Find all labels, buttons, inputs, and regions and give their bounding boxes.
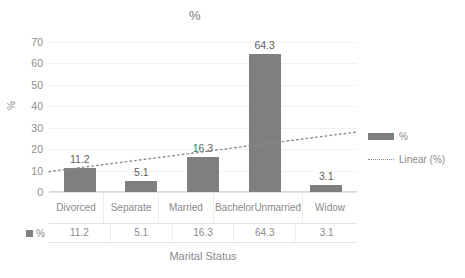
data-table-value-cell: 16.3 <box>172 224 234 242</box>
data-table-category-cell: Divorced <box>49 193 103 223</box>
bar-slot: 3.1 <box>295 42 357 192</box>
y-axis-tick-label: 40 <box>31 101 43 112</box>
bar-slot: 64.3 <box>234 42 296 192</box>
plot-area: 010203040506070 11.25.116.364.33.1 <box>49 42 357 192</box>
series-color-swatch-icon <box>26 230 33 237</box>
y-axis-tick-label: 70 <box>31 37 43 48</box>
data-table-value-cell: 5.1 <box>110 224 172 242</box>
data-table-category-text: Bachelor <box>215 202 254 214</box>
data-table-category-text: Separate <box>111 202 152 214</box>
data-table-category-cell: BachelorUnmarried <box>213 193 302 223</box>
bar[interactable] <box>187 157 219 192</box>
bar-value-label: 3.1 <box>319 170 334 182</box>
bar-value-label: 11.2 <box>70 153 90 165</box>
legend-dotted-line-swatch-icon <box>368 156 394 163</box>
bar[interactable] <box>125 181 157 192</box>
bar-slot: 11.2 <box>49 42 111 192</box>
data-table-value-cell: 11.2 <box>49 224 110 242</box>
data-table-row-header: % <box>26 224 49 242</box>
data-table-category-text: Unmarried <box>254 202 301 214</box>
bar[interactable] <box>249 54 281 192</box>
data-table-category-text: Married <box>169 202 203 214</box>
data-table-category-text: Widow <box>315 202 345 214</box>
data-table-category-row: DivorcedSeparateMarriedBachelorUnmarried… <box>49 193 357 224</box>
x-axis-title: Marital Status <box>49 250 357 262</box>
bar-slot: 16.3 <box>172 42 234 192</box>
y-axis-tick-label: 0 <box>37 187 43 198</box>
bar-slot: 5.1 <box>111 42 173 192</box>
data-table-value-cell: 3.1 <box>295 224 357 242</box>
data-table: % DivorcedSeparateMarriedBachelorUnmarri… <box>49 192 357 243</box>
y-axis-tick-label: 60 <box>31 58 43 69</box>
legend-item-trendline[interactable]: Linear (%) <box>368 154 463 165</box>
y-axis-tick-label: 50 <box>31 80 43 91</box>
chart-legend: % Linear (%) <box>368 131 463 177</box>
data-table-value-row: 11.25.116.364.33.1 <box>49 224 357 242</box>
bar-value-label: 16.3 <box>193 142 213 154</box>
data-table-row-label: % <box>36 228 45 239</box>
y-axis-title: % <box>6 101 17 110</box>
data-table-category-cell: Widow <box>302 193 357 223</box>
bar-value-label: 5.1 <box>134 166 149 178</box>
chart-container: % % 010203040506070 11.25.116.364.33.1 %… <box>0 0 465 278</box>
y-axis-tick-label: 20 <box>31 144 43 155</box>
bar-value-label: 64.3 <box>254 39 274 51</box>
chart-title: % <box>0 8 390 23</box>
y-axis-tick-label: 10 <box>31 165 43 176</box>
data-table-category-text: Divorced <box>56 202 95 214</box>
data-table-category-cell: Married <box>158 193 213 223</box>
legend-item-series[interactable]: % <box>368 131 463 142</box>
legend-label-trendline: Linear (%) <box>399 154 445 165</box>
legend-bar-swatch-icon <box>368 133 394 140</box>
bar[interactable] <box>310 185 342 192</box>
data-table-value-cell: 64.3 <box>233 224 295 242</box>
bar[interactable] <box>64 168 96 192</box>
legend-label-series: % <box>399 131 408 142</box>
data-table-category-cell: Separate <box>103 193 158 223</box>
y-axis-tick-label: 30 <box>31 122 43 133</box>
